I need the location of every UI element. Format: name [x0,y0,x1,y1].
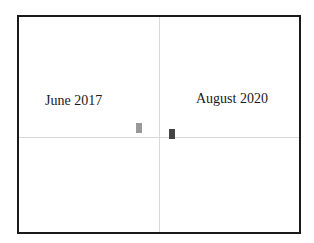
label-june-2017: June 2017 [45,93,102,109]
label-august-2020: August 2020 [196,91,268,107]
marker-june-2017 [136,123,142,133]
marker-august-2020 [169,129,175,139]
vertical-axis-line [159,17,160,232]
horizontal-axis-line [19,137,299,138]
